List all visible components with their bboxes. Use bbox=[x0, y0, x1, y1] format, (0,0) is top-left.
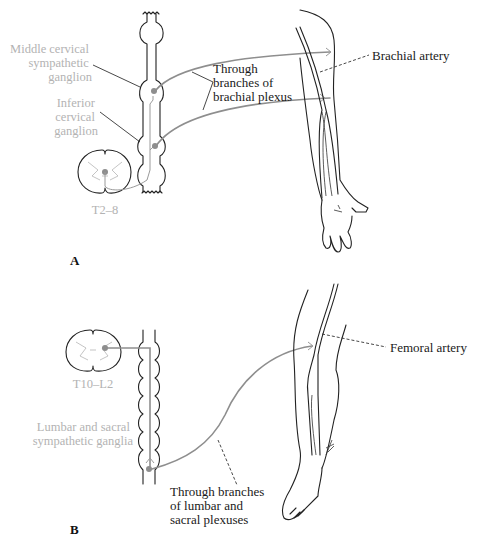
leg-drawing bbox=[282, 284, 346, 520]
label-inferior-cervical-ganglion: Inferior cervical ganglion bbox=[54, 96, 98, 138]
label-middle-cervical-ganglion: Middle cervical sympathetic ganglion bbox=[10, 42, 93, 84]
panel-label-b: B bbox=[70, 522, 79, 537]
label-lumbar-sacral-plexuses: Through branches of lumbar and sacral pl… bbox=[170, 484, 267, 527]
label-cord-level-b: T10–L2 bbox=[73, 377, 113, 391]
panel-label-a: A bbox=[70, 253, 80, 268]
leader-lumbar-plexus bbox=[218, 440, 237, 485]
preganglionic-fibre-b bbox=[105, 348, 150, 467]
leader-brachial-artery bbox=[320, 55, 369, 72]
postganglionic-fibre-lower-a bbox=[156, 98, 330, 146]
lumbar-sacral-sympathetic-trunk bbox=[139, 330, 160, 484]
preganglionic-fibre-a bbox=[105, 96, 153, 190]
label-brachial-plexus: Through branches of brachial plexus bbox=[213, 61, 292, 104]
spinal-cord-section-t10-l2 bbox=[66, 330, 121, 371]
panel-a: Middle cervical sympathetic ganglion Inf… bbox=[10, 10, 450, 268]
label-cord-level-a: T2–8 bbox=[92, 203, 118, 217]
anatomy-diagram: Middle cervical sympathetic ganglion Inf… bbox=[0, 0, 482, 543]
label-lumbar-sacral-ganglia: Lumbar and sacral sympathetic ganglia bbox=[33, 420, 134, 448]
sacral-ganglion-cell bbox=[146, 466, 152, 472]
leader-inferior-ganglion bbox=[100, 112, 140, 142]
postganglionic-fibre-b bbox=[152, 346, 312, 469]
panel-b: T10–L2 Lumbar and sacral sympathetic gan… bbox=[33, 284, 468, 537]
leader-femoral-artery bbox=[322, 334, 386, 347]
arm-drawing bbox=[296, 10, 368, 252]
label-femoral-artery: Femoral artery bbox=[390, 340, 467, 355]
label-brachial-artery: Brachial artery bbox=[372, 48, 450, 63]
spinal-cord-section-t2-8 bbox=[78, 150, 131, 193]
leader-middle-ganglion bbox=[93, 65, 140, 87]
leader-brachial-plexus bbox=[192, 72, 213, 110]
